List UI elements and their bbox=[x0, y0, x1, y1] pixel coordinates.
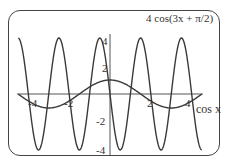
x-tick-m4: -4 bbox=[28, 98, 37, 109]
x-tick-2: 2 bbox=[147, 98, 153, 109]
y-tick-m2: -2 bbox=[96, 116, 105, 127]
y-tick-2: 2 bbox=[102, 63, 108, 74]
curve-label-cos: cos x bbox=[196, 103, 221, 115]
x-tick-4: 4 bbox=[185, 98, 191, 109]
y-tick-m4: -4 bbox=[96, 145, 105, 156]
y-tick-4: 4 bbox=[102, 36, 108, 47]
x-tick-m2: -2 bbox=[64, 98, 73, 109]
plot-area bbox=[0, 0, 232, 166]
curve-label-4cos: 4 cos(3x + π/2) bbox=[146, 12, 213, 24]
